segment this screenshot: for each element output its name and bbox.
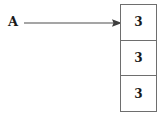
array-cell-value: 3	[134, 51, 142, 65]
array-cell: 3	[121, 41, 156, 77]
array-container: 3 3 3	[120, 4, 157, 112]
pointer-array-diagram: A 3 3 3	[0, 0, 164, 120]
array-cell: 3	[121, 76, 156, 111]
array-cell-value: 3	[134, 87, 142, 101]
pointer-label-a: A	[4, 13, 22, 31]
array-cell-value: 3	[134, 15, 142, 29]
array-cell: 3	[121, 5, 156, 41]
arrow-right-icon	[24, 15, 122, 29]
